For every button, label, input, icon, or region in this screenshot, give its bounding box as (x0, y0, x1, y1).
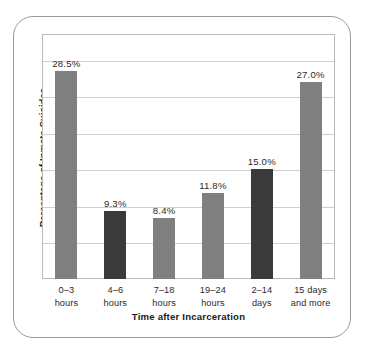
bar-value-label: 11.8% (183, 180, 243, 191)
chart-figure: Percentage of Inmate Suicides 28.5%9.3%8… (0, 0, 365, 349)
bar-value-label: 28.5% (36, 58, 96, 69)
bar-value-label: 15.0% (232, 156, 292, 167)
bar (104, 211, 126, 279)
x-tick-label: 15 days and more (281, 284, 341, 309)
bar (55, 71, 77, 279)
bar (251, 169, 273, 279)
bars-layer: 28.5%9.3%8.4%11.8%15.0%27.0% (42, 34, 335, 279)
bar (153, 218, 175, 279)
bar-value-label: 27.0% (281, 69, 341, 80)
x-axis-title: Time after Incarceration (42, 311, 335, 322)
bar (300, 82, 322, 280)
bar (202, 193, 224, 279)
bar-value-label: 8.4% (134, 205, 194, 216)
